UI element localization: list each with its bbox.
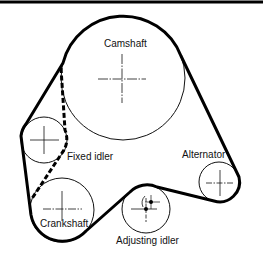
label-adjusting-idler: Adjusting idler <box>116 235 179 246</box>
timing-belt <box>21 16 240 241</box>
label-camshaft: Camshaft <box>104 38 147 49</box>
label-alternator: Alternator <box>182 149 226 160</box>
label-fixed-idler: Fixed idler <box>67 151 114 162</box>
label-crankshaft: Crankshaft <box>40 218 89 229</box>
belt-diagram: Camshaft Fixed idler Alternator Cranksha… <box>0 0 263 262</box>
